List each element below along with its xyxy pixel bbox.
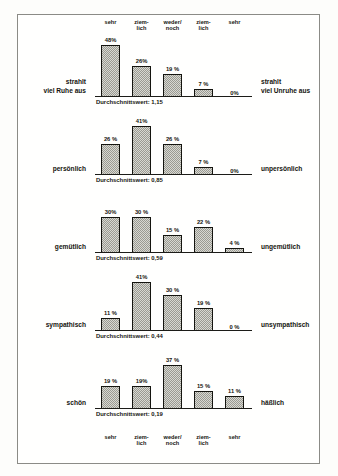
bar-slot-2-2: 15 % bbox=[157, 193, 188, 253]
bar-4-2 bbox=[163, 365, 182, 409]
pole-label-left-4-line-0: schön bbox=[2, 399, 86, 407]
scale-footer-cell-0: sehr bbox=[95, 434, 126, 456]
bar-slot-2-1: 30 % bbox=[126, 193, 157, 253]
pole-label-right-2: ungemütlich bbox=[261, 243, 323, 251]
scale-header-bottom: sehr ziem- lich weder/ noch ziem- lich s… bbox=[95, 434, 250, 456]
bar-value-label-4-4: 11 % bbox=[228, 388, 241, 395]
bar-value-label-4-3: 15 % bbox=[197, 383, 210, 390]
scale-footer-cell-0-line1: sehr bbox=[95, 434, 126, 440]
bar-slot-2-4: 4 % bbox=[219, 193, 250, 253]
scanned-page: sehr ziem- lich weder/ noch ziem- lich s… bbox=[0, 0, 338, 476]
pole-label-right-3-line-0: unsympathisch bbox=[261, 321, 323, 329]
bar-group-2: 30%30 %15 %22 %4 % bbox=[95, 193, 250, 253]
bar-value-label-4-0: 19 % bbox=[104, 378, 117, 385]
bar-value-label-2-4: 4 % bbox=[230, 240, 240, 247]
bar-2-1 bbox=[132, 217, 151, 253]
bar-value-label-4-1: 19% bbox=[136, 378, 148, 385]
bar-group-4: 19 %19%37 %15 %11 % bbox=[95, 349, 250, 409]
scale-footer-cell-4-line1: sehr bbox=[219, 434, 250, 440]
bar-value-label-4-2: 37 % bbox=[166, 357, 179, 364]
bar-2-3 bbox=[194, 227, 213, 253]
pole-label-right-0: strahltviel Unruhe aus bbox=[261, 78, 323, 95]
bar-slot-2-0: 30% bbox=[95, 193, 126, 253]
scale-footer-cell-3: ziem- lich bbox=[188, 434, 219, 456]
bar-group-3: 11 %41%30 %19 %0 % bbox=[95, 271, 250, 331]
baseline-axis-2 bbox=[95, 252, 252, 253]
baseline-axis-1 bbox=[95, 174, 252, 175]
bar-value-label-3-1: 41% bbox=[136, 274, 148, 281]
bar-value-label-1-1: 41% bbox=[136, 118, 148, 125]
pole-label-right-3: unsympathisch bbox=[261, 321, 323, 329]
pole-label-right-0-line-0: strahlt bbox=[261, 78, 323, 86]
bar-value-label-3-0: 11 % bbox=[104, 310, 117, 317]
pole-label-right-1: unpersönlich bbox=[261, 165, 323, 173]
pole-label-right-4: häßlich bbox=[261, 399, 323, 407]
bar-0-2 bbox=[163, 74, 182, 97]
scale-footer-cell-4: sehr bbox=[219, 434, 250, 456]
mean-annotation-4: Durchschnittswert: 0,19 bbox=[96, 411, 163, 418]
bar-value-label-2-3: 22 % bbox=[197, 219, 210, 226]
pole-label-left-0-line-0: strahlt bbox=[2, 78, 86, 86]
bar-1-2 bbox=[163, 144, 182, 175]
pole-label-left-4: schön bbox=[2, 399, 86, 407]
pole-label-left-3: sympathisch bbox=[2, 321, 86, 329]
baseline-axis-4 bbox=[95, 408, 252, 409]
bar-slot-3-4: 0 % bbox=[219, 271, 250, 331]
bar-slot-3-0: 11 % bbox=[95, 271, 126, 331]
pole-label-left-2-line-0: gemütlich bbox=[2, 243, 86, 251]
bar-value-label-1-3: 7 % bbox=[199, 159, 209, 166]
baseline-axis-0 bbox=[95, 96, 252, 97]
pole-label-left-0-line-1: viel Ruhe aus bbox=[2, 87, 86, 95]
pole-label-left-3-line-0: sympathisch bbox=[2, 321, 86, 329]
chart-panel-0: strahltviel Ruhe ausstrahltviel Unruhe a… bbox=[18, 37, 321, 111]
pole-label-left-0: strahltviel Ruhe aus bbox=[2, 78, 86, 95]
bar-slot-0-4: 0% bbox=[219, 37, 250, 97]
bar-4-0 bbox=[101, 386, 120, 409]
scale-header-cell-1-line2: lich bbox=[126, 25, 157, 31]
scale-header-cell-0-line1: sehr bbox=[95, 19, 126, 25]
bar-slot-3-2: 30 % bbox=[157, 271, 188, 331]
bar-value-label-2-0: 30% bbox=[105, 209, 117, 216]
bar-slot-4-0: 19 % bbox=[95, 349, 126, 409]
bar-1-0 bbox=[101, 144, 120, 175]
plot-area-4: 19 %19%37 %15 %11 % bbox=[95, 349, 250, 409]
bar-slot-3-3: 19 % bbox=[188, 271, 219, 331]
scale-header-cell-2-line2: noch bbox=[157, 25, 188, 31]
bar-slot-0-1: 26% bbox=[126, 37, 157, 97]
bar-0-1 bbox=[132, 66, 151, 97]
chart-panel-1: persönlichunpersönlich26 %41%26 %7 %0%Du… bbox=[18, 115, 321, 189]
bar-1-1 bbox=[132, 126, 151, 175]
bar-slot-1-2: 26 % bbox=[157, 115, 188, 175]
bar-3-2 bbox=[163, 295, 182, 331]
chart-panel-2: gemütlichungemütlich30%30 %15 %22 %4 %Du… bbox=[18, 193, 321, 267]
scale-header-cell-3-line2: lich bbox=[188, 25, 219, 31]
mean-annotation-0: Durchschnittswert: 1,15 bbox=[96, 99, 163, 106]
pole-label-left-1: persönlich bbox=[2, 165, 86, 173]
mean-annotation-2: Durchschnittswert: 0,59 bbox=[96, 255, 163, 262]
bar-3-3 bbox=[194, 308, 213, 331]
scale-footer-cell-1-line2: lich bbox=[126, 440, 157, 446]
chart-panel-4: schönhäßlich19 %19%37 %15 %11 %Durchschn… bbox=[18, 349, 321, 423]
baseline-axis-3 bbox=[95, 330, 252, 331]
bar-slot-0-3: 7 % bbox=[188, 37, 219, 97]
bar-slot-3-1: 41% bbox=[126, 271, 157, 331]
bar-value-label-0-2: 19 % bbox=[166, 66, 179, 73]
bar-value-label-3-2: 30 % bbox=[166, 287, 179, 294]
bar-slot-4-3: 15 % bbox=[188, 349, 219, 409]
bar-group-0: 48%26%19 %7 %0% bbox=[95, 37, 250, 97]
scale-header-cell-4-line1: sehr bbox=[219, 19, 250, 25]
pole-label-right-0-line-1: viel Unruhe aus bbox=[261, 87, 323, 95]
bar-slot-0-2: 19 % bbox=[157, 37, 188, 97]
pole-label-right-1-line-0: unpersönlich bbox=[261, 165, 323, 173]
bar-slot-1-0: 26 % bbox=[95, 115, 126, 175]
bar-slot-4-4: 11 % bbox=[219, 349, 250, 409]
scale-footer-cell-3-line2: lich bbox=[188, 440, 219, 446]
bar-2-0 bbox=[101, 217, 120, 253]
bar-4-1 bbox=[132, 386, 151, 409]
mean-annotation-3: Durchschnittswert: 0,44 bbox=[96, 333, 163, 340]
bar-4-3 bbox=[194, 391, 213, 409]
pole-label-left-1-line-0: persönlich bbox=[2, 165, 86, 173]
chart-frame: sehr ziem- lich weder/ noch ziem- lich s… bbox=[17, 14, 320, 464]
plot-area-0: 48%26%19 %7 %0% bbox=[95, 37, 250, 97]
bar-value-label-1-0: 26 % bbox=[104, 136, 117, 143]
